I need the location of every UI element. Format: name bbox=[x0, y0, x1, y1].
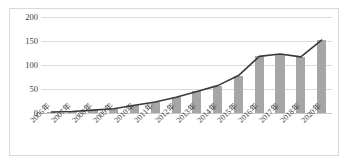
y-tick-label: 200 bbox=[25, 13, 38, 21]
plot-area bbox=[41, 17, 332, 113]
chart-plot-wrapper: 200150100500 2006年2007年2008年2009年2010年20… bbox=[10, 9, 338, 155]
y-tick-label: 150 bbox=[25, 37, 38, 45]
trend-line-path bbox=[51, 40, 321, 112]
x-axis-tick-labels: 2006年2007年2008年2009年2010年2011年2012年2013年… bbox=[41, 115, 332, 155]
y-tick-label: 100 bbox=[25, 61, 38, 69]
x-tick-slot: 2020年 bbox=[311, 115, 332, 155]
chart-frame: 200150100500 2006年2007年2008年2009年2010年20… bbox=[9, 8, 339, 156]
line-series bbox=[41, 17, 332, 113]
y-axis-tick-labels: 200150100500 bbox=[14, 17, 38, 113]
y-tick-label: 50 bbox=[30, 85, 39, 93]
